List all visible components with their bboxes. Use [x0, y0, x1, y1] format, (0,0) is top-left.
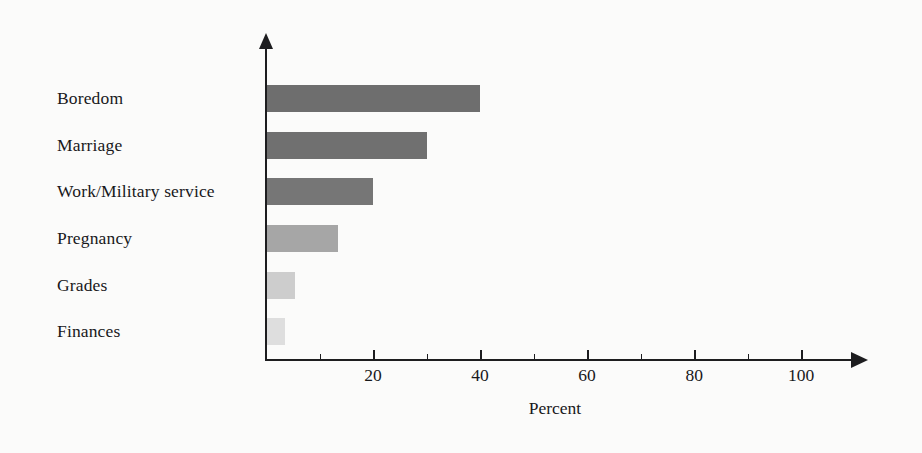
x-tick-label-60: 60 — [578, 365, 596, 386]
x-axis-tick-10 — [320, 354, 322, 361]
category-label-boredom: Boredom — [57, 85, 123, 112]
x-axis-tick-40 — [480, 350, 482, 361]
x-axis-line — [265, 359, 853, 361]
x-tick-label-40: 40 — [471, 365, 489, 386]
x-axis-tick-80 — [694, 350, 696, 361]
category-label-finances: Finances — [57, 318, 120, 345]
x-axis-tick-90 — [748, 354, 750, 361]
bar-finances — [266, 318, 285, 345]
x-axis-tick-20 — [373, 350, 375, 361]
bar-grades — [266, 272, 295, 299]
x-axis-tick-50 — [534, 354, 536, 361]
bar-chart: Boredom Marriage Work/Military service P… — [0, 0, 922, 453]
x-axis-title-text: Percent — [529, 398, 581, 418]
x-axis-tick-30 — [427, 354, 429, 361]
x-axis-arrow-icon — [851, 352, 868, 368]
category-label-grades: Grades — [57, 272, 107, 299]
x-axis-tick-100 — [801, 350, 803, 361]
bar-pregnancy — [266, 225, 338, 252]
x-axis-tick-70 — [641, 354, 643, 361]
y-axis-line — [265, 46, 267, 361]
category-label-work-military-service: Work/Military service — [57, 178, 215, 205]
x-tick-label-80: 80 — [685, 365, 703, 386]
y-axis-arrow-icon — [259, 33, 273, 49]
bar-marriage — [266, 132, 427, 159]
category-label-marriage: Marriage — [57, 132, 122, 159]
category-label-pregnancy: Pregnancy — [57, 225, 132, 252]
x-tick-label-20: 20 — [364, 365, 382, 386]
bar-boredom — [266, 85, 480, 112]
x-axis-title: Percent — [0, 398, 922, 419]
x-tick-label-100: 100 — [788, 365, 814, 386]
bar-work-military-service — [266, 178, 373, 205]
x-axis-tick-60 — [587, 350, 589, 361]
